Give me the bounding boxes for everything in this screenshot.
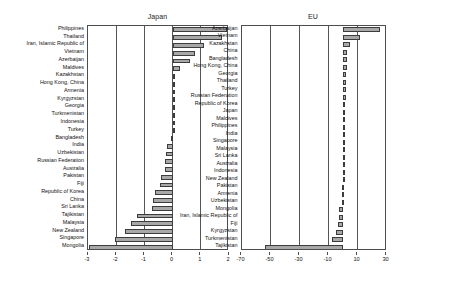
bar (343, 27, 380, 32)
bar (131, 221, 173, 226)
bar (343, 72, 346, 77)
y-axis-label: Singapore (59, 236, 84, 241)
bar (343, 147, 345, 152)
x-axis-tickmark (199, 252, 200, 255)
bar (343, 117, 345, 122)
y-axis-labels-eu: AzerbaijanVietnamKazakhstanChinaBanglade… (229, 0, 238, 289)
bar (165, 159, 172, 164)
bar (343, 65, 347, 70)
bar (173, 113, 175, 118)
y-axis-label: Uzbekistan (57, 150, 84, 155)
x-axis-ticklabels-eu: -70-50-30-101030 (241, 252, 386, 264)
bar (343, 87, 346, 92)
bar (343, 125, 345, 130)
x-axis-tickmark (143, 252, 144, 255)
y-axis-label: Bangladesh (209, 56, 237, 61)
x-axis-tickmark (327, 252, 328, 255)
bar (173, 51, 195, 56)
y-axis-label: Russian Federation (37, 158, 84, 163)
y-axis-label: Bangladesh (56, 135, 84, 140)
bar (173, 66, 180, 71)
y-axis-label: Malaysia (63, 220, 84, 225)
bar (343, 155, 345, 160)
bar (343, 132, 345, 137)
bar (160, 183, 173, 188)
y-axis-label: New Zealand (206, 176, 238, 181)
x-axis-tickmark (240, 252, 241, 255)
bar (161, 175, 172, 180)
bar (165, 167, 173, 172)
y-axis-label: Turkmenistan (52, 112, 84, 117)
x-axis-tickmark (298, 252, 299, 255)
y-axis-label: Iran, Islamic Republic of (26, 42, 84, 47)
eu-gridline (270, 26, 271, 249)
y-axis-label: Turkmenistan (205, 236, 237, 241)
bar (343, 80, 346, 85)
y-axis-label: India (72, 143, 84, 148)
y-axis-label: Republic of Korea (41, 189, 84, 194)
y-axis-label: Mongolia (216, 206, 238, 211)
y-axis-label: Vietnam (218, 34, 238, 39)
y-axis-label: Hong Kong, China (40, 80, 84, 85)
figure-canvas: Japan PhilippinesThailandIran, Islamic R… (0, 0, 457, 289)
bar (171, 136, 173, 141)
bar (342, 200, 344, 205)
bar (153, 198, 172, 203)
bar (343, 162, 345, 167)
y-axis-label: Pakistan (217, 184, 238, 189)
y-axis-label: Kazakhstan (209, 41, 237, 46)
bar (137, 214, 173, 219)
y-axis-label: Australia (217, 161, 238, 166)
bar (338, 222, 343, 227)
bar (155, 190, 172, 195)
y-axis-label: Maldives (63, 65, 84, 70)
bar (173, 82, 175, 87)
y-axis-label: Thailand (217, 79, 238, 84)
panel-japan: Japan PhilippinesThailandIran, Islamic R… (0, 0, 229, 289)
x-axis-ticklabel: 30 (382, 256, 388, 262)
y-axis-label: Tajikistan (62, 212, 84, 217)
y-axis-label: Sri Lanka (61, 205, 84, 210)
eu-gridline (299, 26, 300, 249)
y-axis-label: Japan (223, 109, 238, 114)
bar (152, 206, 172, 211)
y-axis-label: Pakistan (63, 174, 84, 179)
y-axis-label: Malaysia (216, 146, 237, 151)
x-axis-tickmark (269, 252, 270, 255)
x-axis-ticklabel: -10 (323, 256, 331, 262)
x-axis-ticklabel: 10 (353, 256, 359, 262)
y-axis-label: Turkey (221, 86, 237, 91)
y-axis-labels-japan: PhilippinesThailandIran, Islamic Republi… (0, 0, 84, 289)
x-axis-tickmark (115, 252, 116, 255)
bar (166, 152, 172, 157)
bar (343, 170, 345, 175)
bar (343, 95, 346, 100)
japan-gridline (116, 26, 117, 249)
chart-title-japan: Japan (87, 13, 228, 20)
bar (342, 185, 344, 190)
y-axis-label: Kyrgyzstan (57, 96, 84, 101)
y-axis-label: China (70, 197, 84, 202)
y-axis-label: Hong Kong, China (193, 64, 237, 69)
y-axis-label: Fiji (231, 221, 238, 226)
x-axis-ticklabels-japan: -3-2-1012 (87, 252, 228, 264)
y-axis-label: Iran, Islamic Republic of (180, 214, 238, 219)
bar (173, 105, 175, 110)
bar (343, 57, 347, 62)
y-axis-label: Indonesia (214, 169, 237, 174)
y-axis-label: New Zealand (52, 228, 84, 233)
x-axis-tickmark (87, 252, 88, 255)
bar (343, 110, 345, 115)
y-axis-label: Azerbaijan (59, 57, 84, 62)
chart-title-eu: EU (241, 13, 386, 20)
x-axis-ticklabel: -3 (85, 256, 90, 262)
bar (342, 192, 344, 197)
bar (173, 128, 175, 133)
x-axis-ticklabel: -70 (236, 256, 244, 262)
y-axis-label: Russian Federation (191, 94, 238, 99)
bar (336, 230, 343, 235)
bar (343, 42, 350, 47)
bar (125, 229, 173, 234)
bar (173, 59, 190, 64)
bar (339, 215, 343, 220)
